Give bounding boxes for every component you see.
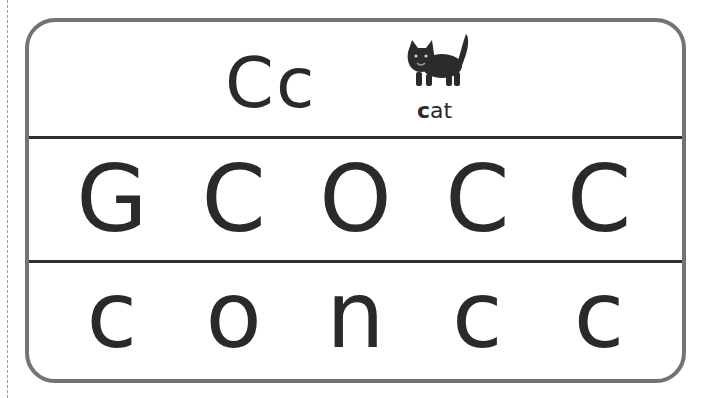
letter-choice[interactable]: O	[305, 139, 405, 260]
lowercase-letter-row: c o n c c	[29, 263, 682, 379]
letter-choice[interactable]: c	[549, 266, 649, 366]
letter-choice[interactable]: c	[62, 266, 162, 366]
letter-choice[interactable]: G	[62, 139, 162, 260]
letter-choice[interactable]: n	[305, 266, 405, 366]
letter-choice[interactable]: C	[184, 139, 284, 260]
worksheet-card: Cc cat G C O C C c o n c c	[25, 18, 686, 383]
letter-pair-title: Cc	[225, 38, 316, 128]
word-initial-letter: c	[417, 98, 430, 123]
uppercase-letter-row: G C O C C	[29, 139, 682, 260]
letter-choice[interactable]: o	[184, 266, 284, 366]
letter-choice[interactable]: C	[427, 139, 527, 260]
picture-word: cat	[417, 98, 452, 123]
cat-icon	[402, 30, 474, 90]
header-row: Cc cat	[29, 22, 682, 136]
word-rest: at	[430, 98, 452, 123]
letter-choice[interactable]: c	[427, 266, 527, 366]
dashed-cut-line	[7, 0, 8, 398]
letter-choice[interactable]: C	[549, 139, 649, 260]
